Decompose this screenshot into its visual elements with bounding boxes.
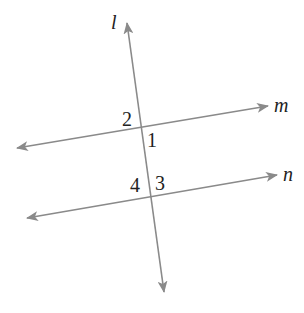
- line-label-m: m: [274, 94, 288, 116]
- line-label-l: l: [111, 11, 117, 33]
- angle-label-4: 4: [130, 174, 140, 196]
- line-m: [17, 106, 268, 148]
- angle-label-2: 2: [122, 108, 132, 130]
- line-l: [127, 23, 164, 292]
- angle-label-3: 3: [155, 172, 165, 194]
- parallel-lines-transversal-diagram: lmn1234: [0, 0, 304, 313]
- lines-layer: [17, 23, 277, 292]
- angle-label-1: 1: [147, 129, 157, 151]
- line-label-n: n: [283, 163, 293, 185]
- line-n: [27, 175, 277, 218]
